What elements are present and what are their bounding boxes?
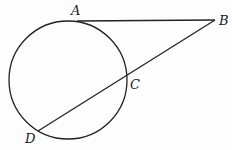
point-label-d: D xyxy=(24,131,36,146)
circle xyxy=(9,21,127,139)
diagram-svg: A B C D xyxy=(0,0,232,150)
secant-segment-bd xyxy=(38,20,215,131)
geometry-diagram: A B C D xyxy=(0,0,232,150)
point-label-c: C xyxy=(130,77,140,92)
point-label-a: A xyxy=(70,3,80,18)
point-label-b: B xyxy=(218,13,229,28)
tangent-segment-ab xyxy=(77,20,215,21)
